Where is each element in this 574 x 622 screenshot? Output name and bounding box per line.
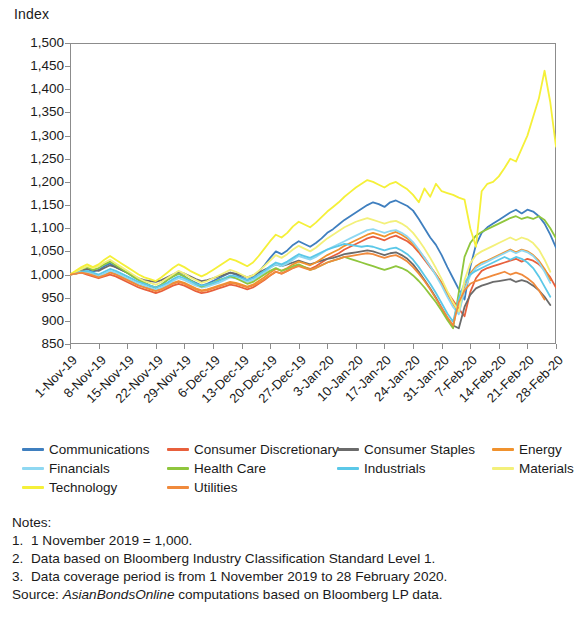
legend-item[interactable]: Financials bbox=[22, 462, 110, 476]
legend-item[interactable]: Energy bbox=[492, 443, 562, 457]
legend-label: Energy bbox=[519, 443, 562, 457]
legend-color-swatch bbox=[337, 467, 359, 470]
legend-label: Materials bbox=[519, 462, 574, 476]
y-axis-tick-label: 850 bbox=[2, 337, 64, 351]
y-axis-tick-label: 1,450 bbox=[2, 59, 64, 73]
y-axis-tick-mark bbox=[65, 205, 70, 206]
y-axis-tick-mark bbox=[65, 298, 70, 299]
note-text: Data based on Bloomberg Industry Classif… bbox=[31, 550, 564, 568]
y-axis-tick-label: 900 bbox=[2, 314, 64, 328]
legend-row: TechnologyUtilities bbox=[22, 478, 562, 497]
x-axis-tick-labels: 1-Nov-198-Nov-1915-Nov-1922-Nov-1929-Nov… bbox=[70, 349, 556, 429]
y-axis-tick-label: 1,250 bbox=[2, 152, 64, 166]
x-axis-tick-mark bbox=[556, 344, 557, 349]
source-publication: AsianBondsOnline bbox=[63, 587, 175, 602]
y-axis-tick-mark bbox=[65, 251, 70, 252]
legend-color-swatch bbox=[22, 486, 44, 489]
y-axis-title: Index bbox=[14, 6, 49, 22]
y-axis-tick-label: 1,000 bbox=[2, 268, 64, 282]
notes-list: 1.1 November 2019 = 1,000.2.Data based o… bbox=[12, 532, 564, 586]
y-axis-tick-mark bbox=[65, 228, 70, 229]
legend-label: Industrials bbox=[364, 462, 426, 476]
y-axis-tick-label: 1,300 bbox=[2, 129, 64, 143]
y-axis-tick-mark bbox=[65, 182, 70, 183]
notes-section: Notes: 1.1 November 2019 = 1,000.2.Data … bbox=[12, 514, 564, 604]
legend-color-swatch bbox=[22, 467, 44, 470]
notes-heading: Notes: bbox=[12, 514, 564, 532]
legend-item[interactable]: Consumer Staples bbox=[337, 443, 475, 457]
legend-item[interactable]: Communications bbox=[22, 443, 150, 457]
y-axis-tick-label: 1,500 bbox=[2, 36, 64, 50]
legend-color-swatch bbox=[167, 486, 189, 489]
y-axis-tick-mark bbox=[65, 66, 70, 67]
y-axis-tick-mark bbox=[65, 112, 70, 113]
legend-row: FinancialsHealth CareIndustrialsMaterial… bbox=[22, 459, 562, 478]
y-axis-tick-mark bbox=[65, 159, 70, 160]
note-number: 1. bbox=[12, 532, 31, 550]
note-number: 3. bbox=[12, 568, 31, 586]
legend-item[interactable]: Health Care bbox=[167, 462, 266, 476]
legend-color-swatch bbox=[167, 467, 189, 470]
legend-color-swatch bbox=[22, 448, 44, 451]
series-line bbox=[70, 232, 550, 313]
legend-color-swatch bbox=[337, 448, 359, 451]
y-axis-tick-mark bbox=[65, 89, 70, 90]
series-line bbox=[70, 216, 556, 328]
legend-label: Utilities bbox=[194, 481, 238, 495]
note-item: 3.Data coverage period is from 1 Novembe… bbox=[12, 568, 564, 586]
legend-item[interactable]: Technology bbox=[22, 481, 117, 495]
legend-color-swatch bbox=[492, 467, 514, 470]
legend-item[interactable]: Industrials bbox=[337, 462, 426, 476]
plot-area bbox=[70, 43, 556, 344]
legend-color-swatch bbox=[167, 448, 189, 451]
legend-label: Financials bbox=[49, 462, 110, 476]
legend-item[interactable]: Consumer Discretionary bbox=[167, 443, 339, 457]
legend-label: Communications bbox=[49, 443, 150, 457]
source-line: Source: AsianBondsOnline computations ba… bbox=[12, 586, 564, 604]
note-number: 2. bbox=[12, 550, 31, 568]
legend-item[interactable]: Materials bbox=[492, 462, 574, 476]
y-axis-tick-label: 950 bbox=[2, 291, 64, 305]
source-prefix: Source: bbox=[12, 587, 63, 602]
legend-label: Consumer Discretionary bbox=[194, 443, 339, 457]
legend-label: Consumer Staples bbox=[364, 443, 475, 457]
index-line-chart: Index 1,5001,4501,4001,3501,3001,2501,20… bbox=[0, 0, 568, 430]
y-axis-tick-label: 1,200 bbox=[2, 175, 64, 189]
y-axis-tick-label: 1,400 bbox=[2, 83, 64, 97]
series-lines bbox=[70, 43, 556, 344]
note-item: 1.1 November 2019 = 1,000. bbox=[12, 532, 564, 550]
note-item: 2.Data based on Bloomberg Industry Class… bbox=[12, 550, 564, 568]
legend-color-swatch bbox=[492, 448, 514, 451]
y-axis-tick-label: 1,050 bbox=[2, 245, 64, 259]
note-text: Data coverage period is from 1 November … bbox=[31, 568, 564, 586]
chart-legend: CommunicationsConsumer DiscretionaryCons… bbox=[22, 440, 562, 500]
y-axis-tick-mark bbox=[65, 43, 70, 44]
y-axis-tick-label: 1,350 bbox=[2, 106, 64, 120]
legend-item[interactable]: Utilities bbox=[167, 481, 238, 495]
y-axis-tick-mark bbox=[65, 136, 70, 137]
y-axis-tick-mark bbox=[65, 275, 70, 276]
y-axis-tick-mark bbox=[65, 321, 70, 322]
series-line bbox=[70, 244, 550, 322]
y-axis-tick-label: 1,100 bbox=[2, 221, 64, 235]
y-axis-tick-label: 1,150 bbox=[2, 198, 64, 212]
legend-label: Technology bbox=[49, 481, 117, 495]
source-rest: computations based on Bloomberg LP data. bbox=[174, 587, 442, 602]
legend-row: CommunicationsConsumer DiscretionaryCons… bbox=[22, 440, 562, 459]
legend-label: Health Care bbox=[194, 462, 266, 476]
note-text: 1 November 2019 = 1,000. bbox=[31, 532, 564, 550]
